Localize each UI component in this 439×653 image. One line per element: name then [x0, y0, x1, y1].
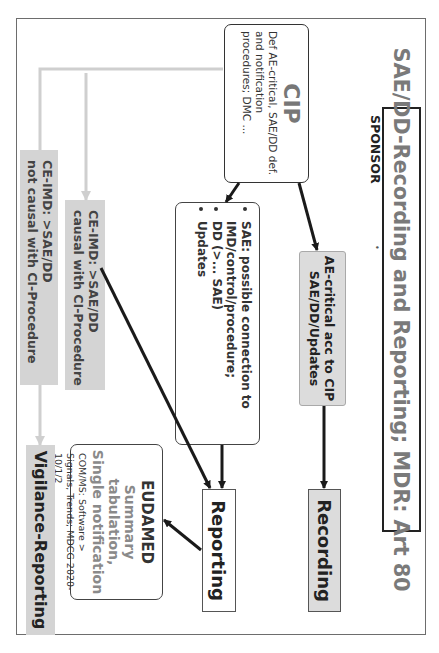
- eudamed-title: EUDAMED: [138, 445, 156, 599]
- reporting-box: Reporting: [202, 489, 236, 612]
- bullet-dot: •: [372, 245, 381, 250]
- cip-description: Def AE-critical, SAE/DD def. and notific…: [240, 25, 279, 182]
- eudamed-box: EUDAMED Summary tabulation, Single notif…: [70, 444, 163, 600]
- ce-not-causal-line2: not causal with CI-Procedure: [25, 150, 40, 385]
- ae-critical-line1: AE-critical acc to CIP: [323, 256, 338, 402]
- ce-causal-line2: causal with CI-Procedure: [71, 200, 86, 390]
- cip-title: CIP: [279, 25, 304, 182]
- vigilance-reporting-box: Vigilance-Reporting: [26, 445, 55, 635]
- cip-box: CIP Def AE-critical, SAE/DD def. and not…: [224, 24, 309, 183]
- eudamed-note: COM/MS: Software > Signals, Trends; MDCG…: [50, 445, 90, 599]
- eudamed-sub1: Summary tabulation,: [106, 445, 138, 599]
- sae-item: DD (>... SAE): [210, 221, 225, 436]
- ce-not-causal-line1: CE-IMD: >SAE/DD: [40, 150, 58, 385]
- ce-imd-causal-box: CE-IMD: >SAE/DD causal with CI-Procedure: [65, 200, 105, 390]
- eudamed-sub2: Single notification: [90, 445, 106, 599]
- sae-box: SAE: possible connection to IMD/control/…: [175, 202, 260, 445]
- ce-causal-line1: CE-IMD: >SAE/DD: [86, 200, 105, 390]
- ae-critical-box: AE-critical acc to CIP SAE/DD/Updates: [299, 251, 346, 406]
- recording-label: Recording: [314, 499, 335, 602]
- sae-item: Updates: [195, 221, 210, 436]
- sae-item: SAE: possible connection to IMD/control/…: [224, 221, 253, 436]
- sponsor-label: SPONSOR: [368, 115, 383, 184]
- reporting-label: Reporting: [209, 500, 230, 601]
- diagram-slide: SAE/DD-Recording and Reporting; MDR: Art…: [0, 0, 439, 653]
- vigilance-label: Vigilance-Reporting: [31, 451, 50, 630]
- ae-critical-line2: SAE/DD/Updates: [308, 271, 323, 386]
- diagram-title: SAE/DD-Recording and Reporting; MDR: Art…: [382, 107, 421, 532]
- ce-imd-not-causal-box: CE-IMD: >SAE/DD not causal with CI-Proce…: [20, 150, 58, 385]
- recording-box: Recording: [308, 489, 341, 612]
